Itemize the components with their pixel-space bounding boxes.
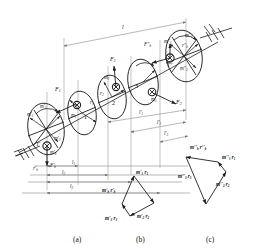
force-label-f2: F2 — [110, 56, 116, 64]
dimension-label-l1: l1 — [72, 160, 75, 166]
vector-label-c2: m''2 r2 — [216, 182, 229, 188]
mass-label-m1-prime: m'1 — [27, 112, 33, 118]
dimension-label-l3-prime: l'3 — [164, 131, 168, 137]
vector-label-cb: m''b r''b — [190, 145, 206, 151]
vector-label-b1: m'1 r1 — [136, 170, 148, 176]
vector-label-b3: m'3 r3 — [105, 216, 117, 222]
vector-label-c3: m''3 r3 — [178, 174, 191, 180]
diagram-svg — [0, 0, 259, 252]
mass-label-m3-prime: m'3 — [54, 136, 60, 142]
force-label-fb-right: F''b — [144, 42, 151, 48]
disk-number-2: 2 — [112, 100, 115, 106]
dimension-label-l: l — [122, 24, 124, 30]
force-label-f1: F1 — [55, 86, 61, 94]
caption-a: (a) — [73, 236, 81, 244]
plane-label-t-prime: T' — [36, 142, 40, 147]
mass-label-m2-dprime: m''2 — [185, 33, 193, 39]
mass-label-m1: m1 — [71, 113, 76, 119]
right-bearing-support — [200, 24, 232, 42]
mass-label-mb-prime: m'b — [50, 150, 56, 156]
radius-label-r1: r1 — [90, 100, 94, 106]
radius-label-rb-prime: r'b — [33, 166, 38, 172]
disk-number-1: 1 — [84, 114, 87, 120]
force-label-f3: F3 — [176, 99, 182, 107]
dimension-label-l3: l3 — [70, 184, 73, 190]
mass-label-m3-dprime: m''3 — [180, 66, 188, 72]
radius-label-r2: r2 — [100, 91, 104, 97]
dimension-label-l1-prime: l'1 — [139, 110, 143, 116]
caption-b: (b) — [136, 236, 145, 244]
mass-label-m2: m2 — [104, 75, 109, 81]
radius-label-rb-dprime: r''b — [182, 43, 188, 49]
dimension-label-l2-prime: l'2 — [157, 120, 161, 126]
force-label-fb-left: F'b — [50, 163, 56, 169]
plane-label-t-dprime: T'' — [167, 63, 172, 68]
vector-label-bb: m'b r'b — [102, 188, 115, 194]
disk-number-3: 3 — [135, 83, 138, 89]
dimension-label-l2: l2 — [62, 170, 65, 176]
mass-label-m3: m3 — [151, 97, 156, 103]
right-dimension-lines — [108, 110, 188, 142]
mass-label-m2-prime: m'2 — [40, 104, 46, 110]
vector-label-b2: m'2 r2 — [137, 214, 149, 220]
figure-canvas: F1 F2 F3 F'b F''b m'1 m'2 m'3 m'b T' r'b… — [0, 0, 259, 252]
caption-c: (c) — [206, 236, 214, 244]
vector-label-c1: m''1 r1 — [222, 155, 235, 161]
mass-label-m1-dprime: m''1 — [164, 39, 172, 45]
